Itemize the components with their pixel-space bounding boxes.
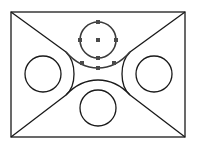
top-left-diagonal[interactable]	[11, 12, 74, 137]
left-circle[interactable]	[25, 56, 61, 92]
arc-grip-end[interactable]	[112, 61, 116, 65]
grip-top[interactable]	[96, 20, 100, 24]
grip-bottom[interactable]	[96, 56, 100, 60]
top-right-diagonal[interactable]	[122, 12, 185, 137]
arc-grip-mid[interactable]	[96, 66, 100, 70]
arc-grip-start[interactable]	[80, 61, 84, 65]
bottom-circle[interactable]	[80, 90, 116, 126]
grip-center[interactable]	[96, 38, 100, 42]
bottom-fillet-arc[interactable]	[66, 80, 130, 95]
drawing-canvas[interactable]	[0, 0, 197, 151]
right-circle[interactable]	[136, 56, 172, 92]
grip-left[interactable]	[78, 38, 82, 42]
grip-right[interactable]	[114, 38, 118, 42]
